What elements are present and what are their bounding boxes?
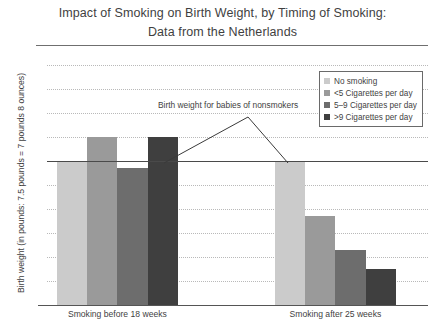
annotation-label: Birth weight for babies of nonsmokers xyxy=(158,100,298,110)
chart-title-line-2: Data from the Netherlands xyxy=(0,23,445,42)
bar xyxy=(148,137,178,305)
chart-title-line-1: Impact of Smoking on Birth Weight, by Ti… xyxy=(59,6,387,20)
legend-item-label: <5 Cigarettes per day xyxy=(334,89,413,98)
bar xyxy=(366,269,396,305)
bar xyxy=(275,161,305,305)
legend-item-label: 5–9 Cigarettes per day xyxy=(334,101,417,110)
bar xyxy=(335,250,365,305)
bar xyxy=(87,137,117,305)
legend-item[interactable]: No smoking xyxy=(324,75,417,87)
page-title: Impact of Smoking on Birth Weight, by Ti… xyxy=(0,4,445,42)
legend-swatch-icon xyxy=(324,90,330,96)
legend-swatch-icon xyxy=(324,102,330,108)
x-axis-category-label: Smoking before 18 weeks xyxy=(47,309,187,319)
gridline xyxy=(47,65,428,66)
bar xyxy=(57,161,87,305)
title-divider xyxy=(36,45,428,46)
legend-item-label: No smoking xyxy=(334,77,377,86)
y-axis-title: Birth weight (in pounds: 7.5 pounds = 7 … xyxy=(16,58,26,308)
x-axis-line xyxy=(38,305,428,306)
legend: No smoking<5 Cigarettes per day5–9 Cigar… xyxy=(319,71,423,127)
x-axis-category-label: Smoking after 25 weeks xyxy=(265,309,405,319)
legend-item[interactable]: 5–9 Cigarettes per day xyxy=(324,99,417,111)
legend-item[interactable]: <5 Cigarettes per day xyxy=(324,87,417,99)
legend-swatch-icon xyxy=(324,78,330,84)
legend-swatch-icon xyxy=(324,114,330,120)
legend-item-label: >9 Cigarettes per day xyxy=(334,113,413,122)
legend-item[interactable]: >9 Cigarettes per day xyxy=(324,111,417,123)
reference-line xyxy=(47,161,428,162)
bar xyxy=(117,168,147,305)
bar xyxy=(305,216,335,305)
